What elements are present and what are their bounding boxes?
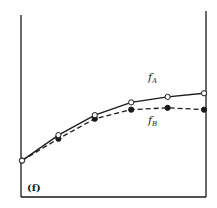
- series-fb-line: [22, 108, 204, 161]
- data-point: [201, 107, 206, 112]
- chart: fA fB (f): [0, 0, 217, 208]
- data-point: [165, 105, 170, 110]
- data-point: [201, 91, 206, 96]
- axes: [21, 11, 206, 197]
- data-point: [165, 94, 170, 99]
- data-point: [92, 113, 97, 118]
- data-point: [129, 100, 134, 105]
- data-point: [129, 107, 134, 112]
- label-fa: fA: [147, 71, 157, 85]
- panel-label: (f): [27, 182, 41, 193]
- data-point: [19, 158, 24, 163]
- label-fb: fB: [147, 114, 157, 128]
- series-fa-line: [22, 93, 204, 160]
- series-fb-markers: [19, 105, 206, 163]
- series-fa-markers: [19, 91, 206, 164]
- data-point: [56, 133, 61, 138]
